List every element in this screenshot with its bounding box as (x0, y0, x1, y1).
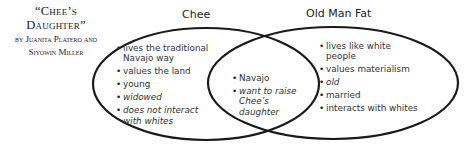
list-item: widowed (116, 92, 216, 102)
old-man-fat-only-list: lives like white people values materiali… (319, 41, 429, 116)
list-item: want to raise Chee’s daughter (232, 86, 298, 117)
list-item: lives like white people (319, 41, 398, 62)
chee-label: Chee (182, 8, 210, 21)
list-item: Navajo (232, 73, 298, 83)
list-item: married (319, 90, 429, 100)
list-item: young (116, 79, 216, 89)
list-item: lives the traditional Navajo way (116, 43, 216, 64)
list-item: does not interact with whites (116, 105, 216, 126)
old-man-fat-label: Old Man Fat (306, 7, 371, 20)
list-item: old (319, 77, 429, 87)
list-item: interacts with whites (319, 103, 429, 113)
chee-only-list: lives the traditional Navajo way values … (116, 43, 216, 129)
shared-list: Navajo want to raise Chee’s daughter (232, 73, 298, 120)
list-item: values materialism (319, 64, 429, 74)
list-item: values the land (116, 66, 216, 76)
